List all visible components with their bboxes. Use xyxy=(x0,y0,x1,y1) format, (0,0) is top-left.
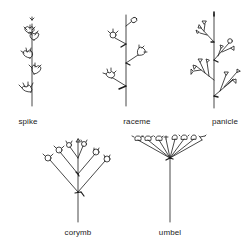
flower-icon xyxy=(137,45,147,55)
corymb-illustration xyxy=(43,139,110,222)
flower-icon xyxy=(108,29,118,38)
flower-icon xyxy=(172,135,177,139)
flower-icon xyxy=(54,146,64,153)
flower-icon xyxy=(19,82,33,92)
label-panicle: panicle xyxy=(212,117,238,126)
panicle-illustration xyxy=(191,12,240,108)
flower-icon xyxy=(43,154,53,161)
label-spike: spike xyxy=(18,117,37,126)
flower-icon xyxy=(81,140,87,147)
flower-icon xyxy=(24,25,35,33)
flower-icon xyxy=(29,63,41,74)
umbel-illustration xyxy=(132,135,206,222)
flower-icon xyxy=(104,155,110,162)
label-corymb: corymb xyxy=(65,228,92,237)
flower-icon xyxy=(93,148,99,155)
raceme-illustration xyxy=(103,15,147,106)
flower-icon xyxy=(179,135,189,139)
flower-icon xyxy=(66,141,72,148)
flower-icon xyxy=(103,68,116,78)
flower-icon xyxy=(191,135,196,139)
flower-icon xyxy=(132,136,143,140)
label-umbel: umbel xyxy=(159,228,181,237)
flower-icon xyxy=(21,48,33,58)
flower-icon xyxy=(154,136,163,140)
spike-illustration xyxy=(19,17,41,106)
flower-icon xyxy=(142,136,153,140)
label-raceme: raceme xyxy=(123,117,150,126)
